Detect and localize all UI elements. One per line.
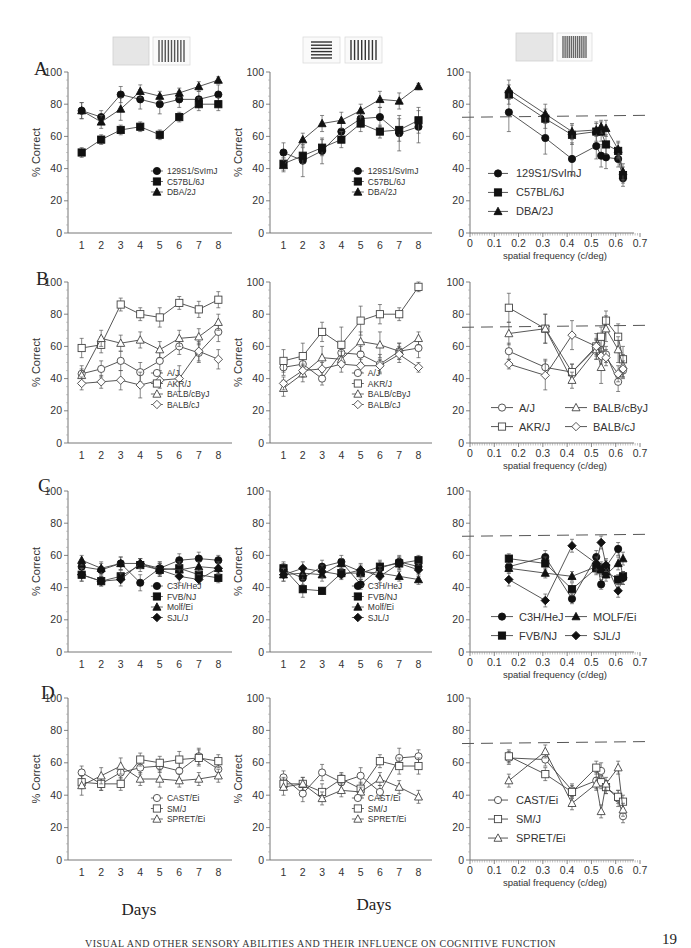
- axes: 02040608010012345678% Correct: [232, 66, 432, 252]
- y-tick-label: 80: [252, 517, 264, 529]
- x-tick-label: 0.3: [536, 237, 551, 249]
- legend-entry: SPRET/Ei: [368, 814, 406, 824]
- legend-entry: 129S1/SvImJ: [516, 167, 581, 179]
- x-tick-label: 8: [215, 866, 221, 878]
- y-tick-label: 0: [258, 227, 264, 239]
- legend-entry: BALB/cJ: [593, 421, 635, 433]
- y-tick-label: 80: [252, 724, 264, 736]
- y-tick-label: 80: [252, 308, 264, 320]
- y-tick-label: 60: [252, 549, 264, 561]
- legend-entry: A/J: [368, 368, 380, 378]
- y-tick-label: 20: [252, 613, 264, 625]
- y-tick-label: 20: [252, 404, 264, 416]
- y-tick-label: 40: [252, 581, 264, 593]
- legend-entry: C57BL/6J: [516, 186, 564, 198]
- x-tick-label: 2: [300, 239, 306, 251]
- chart-a1: 02040608010012345678% Correct129S1/SvImJ…: [30, 66, 232, 252]
- y-tick-label: 40: [252, 372, 264, 384]
- x-tick-label: 4: [137, 658, 143, 670]
- y-axis-label: % Correct: [232, 128, 244, 177]
- x-tick-label: 2: [300, 866, 306, 878]
- x-tick-label: 6: [377, 658, 383, 670]
- x-tick-label: 7: [396, 866, 402, 878]
- criterion-dashed-line: [462, 742, 650, 744]
- chart-a3: 02040608010000.10.20.30.40.50.60.7spatia…: [446, 66, 650, 262]
- x-tick-label: 8: [416, 658, 422, 670]
- legend-entry: C3H/HeJ: [167, 581, 201, 591]
- legend-entry: BALB/cByJ: [593, 402, 648, 414]
- legend: 129S1/SvImJC57BL/6JDBA/2J: [151, 166, 218, 197]
- legend-entry: Molf/Ei: [368, 602, 394, 612]
- y-tick-label: 80: [50, 517, 62, 529]
- legend: C3H/HeJFVB/NJMolf/EiSJL/J: [352, 581, 402, 623]
- grey-square-stimulus-icon-2: [516, 33, 553, 61]
- legend-entry: SPRET/Ei: [516, 832, 566, 844]
- y-tick-label: 40: [252, 789, 264, 801]
- legend-entry: FVB/NJ: [368, 592, 397, 602]
- legend-entry: A/J: [519, 402, 535, 414]
- y-axis-label: % Correct: [232, 755, 244, 804]
- x-tick-label: 0.1: [487, 864, 502, 876]
- y-tick-label: 100: [446, 692, 464, 704]
- x-tick-label: 8: [416, 239, 422, 251]
- y-tick-label: 80: [50, 98, 62, 110]
- x-tick-label: 7: [196, 449, 202, 461]
- x-tick-label: 3: [319, 866, 325, 878]
- x-tick-label: 2: [300, 658, 306, 670]
- y-tick-label: 20: [452, 404, 464, 416]
- chart-b2: 02040608010012345678% CorrectA/JAKR/JBAL…: [232, 276, 432, 462]
- legend-entry: BALB/cJ: [167, 400, 200, 410]
- y-tick-label: 0: [258, 854, 264, 866]
- x-tick-label: 8: [215, 239, 221, 251]
- legend-entry: 129S1/SvImJ: [167, 166, 218, 176]
- x-tick-label: 7: [396, 239, 402, 251]
- legend-entry: BALB/cJ: [368, 400, 401, 410]
- y-tick-label: 20: [252, 194, 264, 206]
- legend-entry: SM/J: [167, 804, 186, 814]
- x-tick-label: 7: [396, 658, 402, 670]
- x-tick-label: 3: [118, 239, 124, 251]
- y-tick-label: 40: [452, 162, 464, 174]
- y-tick-label: 0: [458, 854, 464, 866]
- chart-c3: 02040608010000.10.20.30.40.50.60.7spatia…: [446, 485, 650, 681]
- y-tick-label: 80: [50, 308, 62, 320]
- y-tick-label: 40: [50, 581, 62, 593]
- y-tick-label: 80: [452, 517, 464, 529]
- x-tick-label: 3: [118, 449, 124, 461]
- grey-square-stimulus-icon: [113, 37, 149, 65]
- page-footer-text: VISUAL AND OTHER SENSORY ABILITIES AND T…: [85, 938, 556, 948]
- legend-entry: SPRET/Ei: [167, 814, 205, 824]
- criterion-dashed-line: [462, 115, 650, 117]
- y-tick-label: 60: [50, 549, 62, 561]
- y-tick-label: 60: [452, 130, 464, 142]
- legend: A/JAKR/JBALB/cByJBALB/cJ: [491, 402, 648, 433]
- x-tick-label: 0.3: [536, 656, 551, 668]
- y-tick-label: 20: [50, 613, 62, 625]
- x-tick-label: 0.2: [511, 656, 526, 668]
- days-label-col2: Days: [357, 895, 392, 914]
- x-tick-label: 0.1: [487, 237, 502, 249]
- y-tick-label: 80: [452, 308, 464, 320]
- x-tick-label: 1: [79, 866, 85, 878]
- series-c57bl-6j: [78, 98, 222, 158]
- x-tick-label: 0.6: [608, 447, 623, 459]
- y-tick-label: 100: [246, 692, 264, 704]
- x-tick-label: 1: [281, 239, 287, 251]
- axes: 02040608010012345678% Correct: [30, 66, 232, 252]
- legend-entry: AKR/J: [519, 421, 550, 433]
- legend: CAST/EiSM/JSPRET/Ei: [151, 793, 205, 824]
- x-tick-label: 1: [281, 658, 287, 670]
- y-tick-label: 60: [50, 130, 62, 142]
- x-tick-label: 3: [319, 658, 325, 670]
- chart-a2: 02040608010012345678% Correct129S1/SvImJ…: [232, 66, 432, 252]
- y-tick-label: 60: [252, 756, 264, 768]
- chart-d2: 02040608010012345678% CorrectCAST/EiSM/J…: [232, 692, 432, 879]
- y-tick-label: 20: [252, 821, 264, 833]
- axes: 02040608010000.10.20.30.40.50.60.7spatia…: [446, 692, 647, 889]
- y-tick-label: 60: [452, 340, 464, 352]
- chart-b1: 02040608010012345678% CorrectA/JAKR/JBAL…: [30, 276, 232, 462]
- x-tick-label: 4: [137, 239, 143, 251]
- y-tick-label: 100: [446, 66, 464, 78]
- legend-entry: C57BL/6J: [368, 177, 405, 187]
- x-tick-label: 4: [137, 449, 143, 461]
